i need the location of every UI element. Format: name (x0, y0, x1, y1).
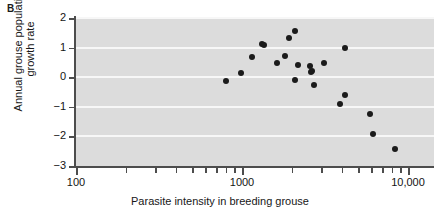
plot-area (76, 18, 434, 166)
x-axis-minor-tick (226, 168, 228, 173)
data-point (282, 53, 288, 59)
y-axis-tick (69, 48, 75, 50)
data-point (342, 45, 348, 51)
y-axis-tick (69, 136, 75, 138)
x-axis-minor-tick (292, 168, 294, 173)
x-axis-tick-label: 100 (67, 176, 85, 188)
y-axis-tick-label: 2 (40, 11, 66, 23)
data-point (286, 35, 292, 41)
x-axis-minor-tick (192, 168, 194, 173)
data-point (392, 146, 398, 152)
y-axis-title-line1: Annual grouse population (12, 0, 25, 111)
y-axis-tick-label: −3 (40, 159, 66, 171)
y-axis-tick-label: 0 (40, 70, 66, 82)
x-axis-minor-tick (400, 168, 402, 173)
x-axis-minor-tick (234, 168, 236, 173)
panel-label-b: B (7, 3, 14, 14)
chart-root: B Annual grouse population growth rate 2… (0, 0, 440, 216)
x-axis-major-tick (408, 168, 410, 175)
y-axis-tick-label: −2 (40, 129, 66, 141)
x-axis-minor-tick (342, 168, 344, 173)
y-axis-tick (69, 166, 75, 168)
y-axis-tick (69, 107, 75, 109)
y-axis-line (74, 16, 76, 168)
gridline (76, 17, 434, 19)
x-axis-line (74, 166, 434, 168)
y-axis-tick-label: 1 (40, 41, 66, 53)
data-point (223, 78, 229, 84)
gridline (76, 76, 434, 78)
data-point (309, 68, 315, 74)
x-axis-major-tick (76, 168, 78, 175)
x-axis-minor-tick (321, 168, 323, 173)
data-point (292, 28, 298, 34)
gridline (76, 47, 434, 49)
data-point (295, 62, 301, 68)
data-point (367, 111, 373, 117)
data-point (292, 77, 298, 83)
y-axis-tick (69, 77, 75, 79)
x-axis-minor-tick (371, 168, 373, 173)
y-axis-tick-label: −1 (40, 100, 66, 112)
x-axis-tick-label: 1000 (230, 176, 254, 188)
x-axis-major-tick (242, 168, 244, 175)
data-point (342, 92, 348, 98)
data-point (238, 70, 244, 76)
x-axis-title: Parasite intensity in breeding grouse (0, 195, 440, 207)
x-axis-minor-tick (392, 168, 394, 173)
x-axis-minor-tick (358, 168, 360, 173)
y-axis-title-line2: growth rate (24, 0, 37, 111)
gridline (76, 106, 434, 108)
x-axis-minor-tick (216, 168, 218, 173)
gridline (76, 135, 434, 137)
data-point (274, 60, 280, 66)
y-axis-tick (69, 18, 75, 20)
data-point (321, 60, 327, 66)
data-point (311, 82, 317, 88)
data-point (249, 54, 255, 60)
x-axis-minor-tick (126, 168, 128, 173)
x-axis-minor-tick (176, 168, 178, 173)
data-point (337, 101, 343, 107)
x-axis-tick-label: 10,000 (391, 176, 425, 188)
x-axis-minor-tick (205, 168, 207, 173)
x-axis-minor-tick (155, 168, 157, 173)
x-axis-minor-tick (382, 168, 384, 173)
